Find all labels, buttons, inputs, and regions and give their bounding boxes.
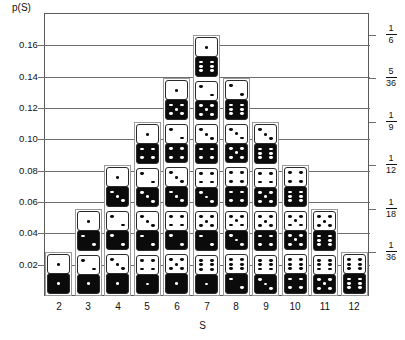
outcome-cell-1-6 xyxy=(195,37,218,79)
bar-sum-4[interactable] xyxy=(104,165,131,296)
pip xyxy=(317,224,320,227)
pip xyxy=(121,267,124,270)
pip xyxy=(210,104,213,107)
pip-grid xyxy=(107,187,128,205)
die-black-4 xyxy=(136,143,159,163)
pip xyxy=(240,108,243,111)
pip xyxy=(169,171,172,174)
pip xyxy=(299,286,302,289)
pip-grid xyxy=(107,255,128,273)
bar-sum-7[interactable] xyxy=(193,35,220,296)
pip xyxy=(229,112,232,115)
pip xyxy=(258,235,261,238)
pip-grid xyxy=(226,231,247,249)
pip xyxy=(269,191,272,194)
fraction-denominator: 12 xyxy=(379,166,403,175)
pip xyxy=(288,243,291,246)
bar-sum-5[interactable] xyxy=(134,122,161,296)
bar-sum-6[interactable] xyxy=(163,78,190,296)
die-black-2 xyxy=(106,230,129,250)
pip xyxy=(57,263,60,266)
pip xyxy=(317,243,320,246)
pip xyxy=(258,278,261,281)
pip xyxy=(210,94,213,97)
pip xyxy=(299,258,302,261)
pip xyxy=(146,283,149,286)
outcome-cell-5-3 xyxy=(225,211,248,253)
bar-sum-11[interactable] xyxy=(311,209,338,296)
fraction-label: 19 xyxy=(379,111,403,133)
pip xyxy=(146,195,149,198)
bar-sum-3[interactable] xyxy=(75,209,102,296)
die-white-6 xyxy=(313,255,336,275)
pip xyxy=(358,286,361,289)
bar-sum-12[interactable] xyxy=(341,252,368,296)
pip xyxy=(140,148,143,151)
pip xyxy=(121,243,124,246)
pip xyxy=(317,239,320,242)
pip xyxy=(328,278,331,281)
die-black-2 xyxy=(77,230,100,250)
outcome-cell-1-3 xyxy=(106,167,129,209)
pip xyxy=(288,278,291,281)
dice-sum-probability-chart: p(S) 0.020.040.060.080.100.120.140.16 16… xyxy=(0,0,405,340)
bar-sum-9[interactable] xyxy=(252,122,279,296)
die-black-5 xyxy=(165,99,188,119)
x-tick-label-11: 11 xyxy=(310,301,340,312)
die-black-1 xyxy=(136,274,159,294)
pip xyxy=(288,171,291,174)
y-tick-label: 0.14 xyxy=(19,71,38,82)
die-black-6 xyxy=(225,99,248,119)
die-white-5 xyxy=(195,211,218,231)
pip-grid xyxy=(78,256,99,274)
pip-grid xyxy=(137,212,158,230)
pip-grid xyxy=(166,274,187,292)
x-tick-label-3: 3 xyxy=(73,301,103,312)
bar-sum-2[interactable] xyxy=(45,252,72,296)
y-tick-label: 0.10 xyxy=(19,133,38,144)
pip xyxy=(299,267,302,270)
pip xyxy=(347,263,350,266)
pip-grid xyxy=(166,100,187,118)
pip xyxy=(358,267,361,270)
pip xyxy=(235,219,238,222)
pip xyxy=(288,286,291,289)
pip xyxy=(169,147,172,150)
die-black-2 xyxy=(136,230,159,250)
pip xyxy=(180,180,183,183)
right-axis-tick xyxy=(369,165,376,166)
pip xyxy=(288,191,291,194)
pip-grid xyxy=(107,168,128,186)
pip xyxy=(347,286,350,289)
outcome-cell-3-1 xyxy=(106,254,129,296)
pip xyxy=(264,195,267,198)
pip xyxy=(240,137,243,140)
y-axis-tick xyxy=(38,233,44,234)
die-black-1 xyxy=(106,273,129,293)
outcome-cell-2-3 xyxy=(136,168,159,210)
die-white-1 xyxy=(47,254,70,274)
pip xyxy=(140,156,143,159)
pip xyxy=(347,282,350,285)
pip-grid xyxy=(226,168,247,186)
pip xyxy=(317,263,320,266)
pip xyxy=(294,238,297,241)
pip xyxy=(210,263,213,266)
pip xyxy=(258,243,261,246)
pip-grid xyxy=(226,125,247,143)
bar-sum-8[interactable] xyxy=(223,78,250,296)
right-axis-tick xyxy=(369,209,376,210)
pip xyxy=(258,200,261,203)
x-axis-title: S xyxy=(0,320,405,331)
y-axis-tick xyxy=(38,77,44,78)
pip xyxy=(258,128,261,131)
bar-sum-10[interactable] xyxy=(282,165,309,296)
pip xyxy=(347,258,350,261)
fraction-denominator: 9 xyxy=(379,123,403,132)
die-black-3 xyxy=(254,274,277,294)
pip xyxy=(317,278,320,281)
pip xyxy=(229,191,232,194)
pip xyxy=(205,220,208,223)
outcome-cell-1-5 xyxy=(165,80,188,122)
pip xyxy=(229,263,232,266)
